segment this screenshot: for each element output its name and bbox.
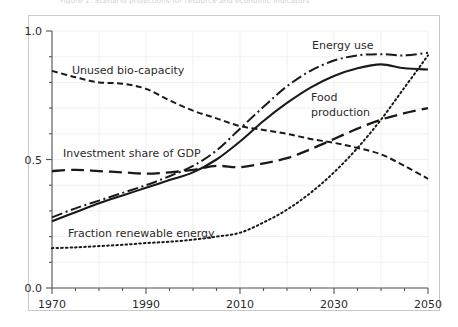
label-investment-share-of-gdp: Investment share of GDP bbox=[63, 147, 201, 160]
x-tick-label: 1970 bbox=[38, 298, 66, 311]
y-tick-label: 1.0 bbox=[25, 25, 43, 38]
line-chart: 0.00.51.0 19701990201020302050 Unused bi… bbox=[0, 0, 458, 327]
x-tick-label: 1990 bbox=[132, 298, 160, 311]
figure-container: Figure 1. Scenario projections for resou… bbox=[0, 0, 458, 327]
label-food-production-line1: Food bbox=[311, 91, 337, 104]
label-fraction-renewable-energy: Fraction renewable energy bbox=[68, 227, 215, 240]
x-axis-ticks bbox=[52, 288, 428, 294]
label-unused-bio-capacity: Unused bio-capacity bbox=[72, 64, 185, 77]
series-annotations: Unused bio-capacity Investment share of … bbox=[63, 39, 374, 240]
x-tick-label: 2010 bbox=[226, 298, 254, 311]
y-tick-label: 0.5 bbox=[25, 154, 43, 167]
label-energy-use: Energy use bbox=[312, 39, 374, 52]
y-axis-tick-labels: 0.00.51.0 bbox=[25, 25, 43, 295]
label-food-production-line2: production bbox=[311, 106, 370, 119]
y-axis-ticks bbox=[46, 31, 52, 288]
x-axis-tick-labels: 19701990201020302050 bbox=[38, 298, 442, 311]
x-tick-label: 2050 bbox=[414, 298, 442, 311]
x-tick-label: 2030 bbox=[320, 298, 348, 311]
y-tick-label: 0.0 bbox=[25, 282, 43, 295]
